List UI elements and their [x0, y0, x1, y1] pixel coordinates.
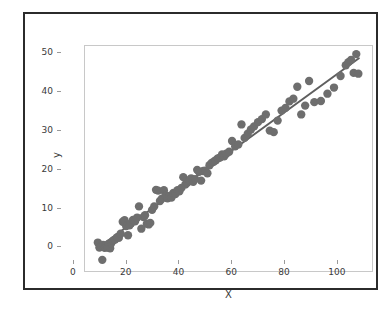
x-tick-label: 20: [120, 268, 131, 277]
y-tick-mark: [57, 208, 61, 209]
scatter-point: [203, 169, 211, 177]
y-tick-mark: [57, 91, 61, 92]
figure-outer-frame: 01020304050020406080100 X y: [23, 12, 378, 290]
scatter-point: [270, 128, 278, 136]
y-tick-label: 20: [27, 164, 53, 173]
y-tick-label: 0: [27, 242, 53, 251]
y-tick-mark: [57, 52, 61, 53]
scatter-point: [197, 176, 205, 184]
scatter-point: [336, 72, 344, 80]
scatter-point: [141, 211, 149, 219]
scatter-point: [98, 256, 106, 264]
x-tick-label: 80: [278, 268, 289, 277]
scatter-point: [305, 77, 313, 85]
scatter-point: [237, 120, 245, 128]
scatter-point: [273, 116, 281, 124]
scatter-point: [116, 230, 124, 238]
scatter-point: [354, 70, 362, 78]
x-tick-mark: [73, 260, 74, 264]
y-tick-label: 10: [27, 203, 53, 212]
scatter-point: [352, 50, 360, 58]
y-tick-label: 30: [27, 126, 53, 135]
scatter-point: [289, 95, 297, 103]
scatter-point: [297, 110, 305, 118]
scatter-point: [323, 90, 331, 98]
plot-area: [84, 45, 373, 272]
x-tick-label: 40: [173, 268, 184, 277]
x-tick-mark: [284, 260, 285, 264]
y-tick-mark: [57, 130, 61, 131]
y-tick-mark: [57, 246, 61, 247]
y-axis-label: y: [52, 152, 62, 158]
x-tick-mark: [337, 260, 338, 264]
scatter-point: [234, 140, 242, 148]
scatter-points: [94, 50, 363, 264]
scatter-point: [317, 97, 325, 105]
scatter-point: [124, 231, 132, 239]
scatter-point: [146, 219, 154, 227]
x-tick-label: 60: [225, 268, 236, 277]
x-tick-label: 100: [328, 268, 345, 277]
figure-root: 01020304050020406080100 X y: [0, 0, 389, 309]
x-tick-label: 0: [70, 268, 76, 277]
scatter-point: [262, 110, 270, 118]
scatter-point: [301, 101, 309, 109]
x-tick-mark: [231, 260, 232, 264]
x-tick-mark: [126, 260, 127, 264]
x-tick-mark: [178, 260, 179, 264]
y-tick-label: 50: [27, 48, 53, 57]
y-tick-label: 40: [27, 87, 53, 96]
scatter-point: [135, 202, 143, 210]
scatter-point: [330, 83, 338, 91]
y-tick-mark: [57, 169, 61, 170]
scatter-plot-canvas: [85, 46, 372, 271]
x-axis-label: X: [84, 290, 373, 300]
scatter-point: [293, 83, 301, 91]
